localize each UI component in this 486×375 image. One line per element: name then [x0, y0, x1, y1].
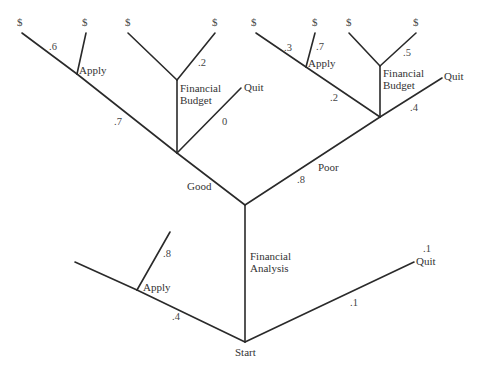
edge-apply-right-dollar1	[256, 33, 306, 67]
node-start: Start	[235, 346, 256, 359]
payoff-3: $	[125, 16, 131, 28]
node-apply-top-left: Apply	[79, 64, 107, 77]
prob-poor: .8	[297, 174, 305, 185]
node-quit-mid-left: Quit	[244, 81, 264, 94]
edge-good-apply	[77, 74, 177, 153]
node-quit-right: Quit	[444, 70, 464, 83]
edge-analysis-good	[177, 153, 245, 205]
node-budget-left-line2: Budget	[180, 94, 212, 107]
edge-analysis-poor	[245, 117, 380, 205]
decision-tree-diagram	[0, 0, 486, 375]
edge-budget-right-dollar1	[349, 33, 380, 66]
prob-quit-bottom-top: .1	[423, 243, 431, 254]
node-analysis-line2: Analysis	[250, 262, 289, 275]
prob-good-apply-left: .6	[49, 41, 57, 52]
payoff-2: $	[82, 16, 88, 28]
prob-poor-apply-left: .3	[284, 42, 292, 53]
prob-good: .7	[114, 116, 122, 127]
payoff-6: $	[312, 16, 318, 28]
prob-poor-apply: .2	[330, 92, 338, 103]
payoff-4: $	[212, 16, 218, 28]
prob-start-apply: .4	[172, 311, 180, 322]
node-quit-bottom: Quit	[416, 255, 436, 268]
prob-poor-quit: .4	[410, 102, 418, 113]
prob-good-quit: 0	[222, 116, 227, 127]
prob-good-budget-right: .2	[198, 57, 206, 68]
edge-apply-left-dollar1	[22, 33, 77, 74]
payoff-5: $	[251, 16, 257, 28]
payoff-7: $	[346, 16, 352, 28]
edge-poor-apply	[306, 67, 380, 117]
prob-start-quit: .1	[350, 297, 358, 308]
node-apply-bottom: Apply	[143, 281, 171, 294]
edge-start-apply	[137, 290, 245, 342]
edge-apply-bottom-left	[75, 262, 137, 290]
payoff-1: $	[17, 16, 23, 28]
node-poor: Poor	[318, 161, 339, 174]
prob-poor-budget-right: .5	[403, 47, 411, 58]
node-good: Good	[187, 180, 211, 193]
node-apply-top-right: Apply	[308, 57, 336, 70]
payoff-8: $	[413, 16, 419, 28]
edge-budget-left-dollar1	[128, 33, 177, 80]
prob-poor-apply-right: .7	[316, 41, 324, 52]
edge-budget-left-dollar2	[177, 33, 215, 80]
node-budget-right-line2: Budget	[383, 79, 415, 92]
prob-apply-bottom-branch: .8	[163, 248, 171, 259]
